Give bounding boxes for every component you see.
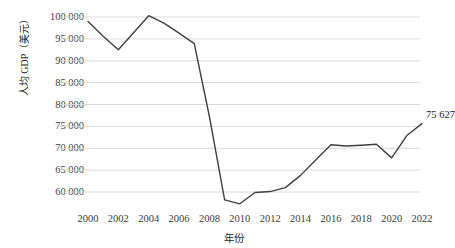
x-axis-tick-label: 2014 <box>284 213 318 224</box>
x-axis-tick-label: 2000 <box>71 213 105 224</box>
data-label-end-value: 75 627 <box>426 109 455 120</box>
x-axis-tick-label: 2002 <box>101 213 135 224</box>
x-axis-tick-label: 2022 <box>405 213 439 224</box>
x-axis-title: 年份 <box>224 230 244 245</box>
x-axis-tick-label: 2006 <box>162 213 196 224</box>
x-axis-tick-label: 2016 <box>314 213 348 224</box>
x-axis-tick-label: 2008 <box>192 213 226 224</box>
x-axis-tick-label: 2012 <box>253 213 287 224</box>
x-axis-tick-label: 2020 <box>375 213 409 224</box>
gridlines <box>60 17 420 192</box>
x-axis-tick-label: 2018 <box>344 213 378 224</box>
x-axis-tick-label: 2004 <box>132 213 166 224</box>
x-axis-tick-label: 2010 <box>223 213 257 224</box>
series-line-gdp-per-capita <box>88 16 422 204</box>
x-axis-title-wrap: 年份 <box>0 230 450 245</box>
